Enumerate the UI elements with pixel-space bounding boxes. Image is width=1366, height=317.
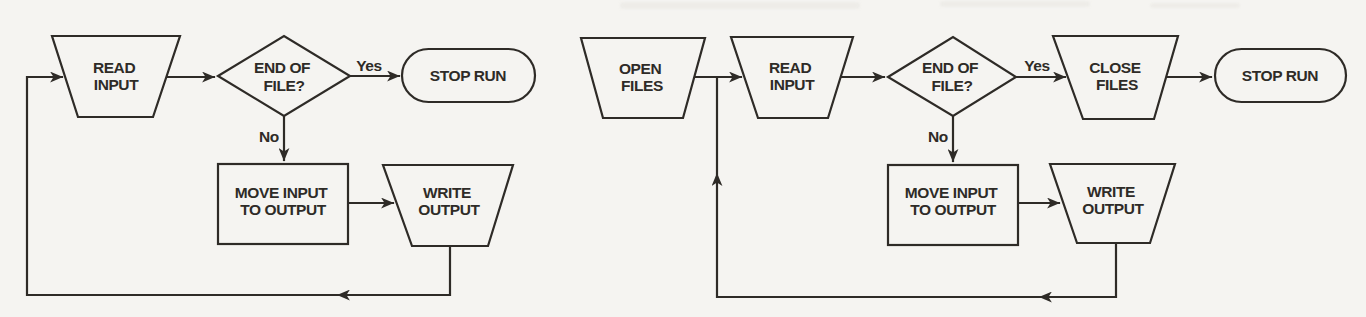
node-left-move-input: MOVE INPUT TO OUTPUT xyxy=(218,164,348,244)
flowchart-left: READ INPUT END OF FILE? STOP RUN xyxy=(27,36,535,295)
stop-run-label: STOP RUN xyxy=(1242,67,1319,84)
node-left-write-output: WRITE OUTPUT xyxy=(383,165,513,246)
left-no-branch-label: No xyxy=(259,128,279,145)
edge-right-write-output-loop-down xyxy=(1040,243,1116,297)
scanned-flowchart-page: READ INPUT END OF FILE? STOP RUN xyxy=(0,0,1366,317)
node-right-read-input: READ INPUT xyxy=(731,37,853,118)
right-no-branch-label: No xyxy=(928,128,948,145)
write-output-label: WRITE OUTPUT xyxy=(418,184,480,218)
node-right-open-files: OPEN FILES xyxy=(581,38,705,118)
end-of-file-diamond xyxy=(218,36,350,116)
read-input-label: READ INPUT xyxy=(93,59,139,93)
node-left-stop-run: STOP RUN xyxy=(402,49,535,102)
edge-left-write-output-loop-down xyxy=(338,246,450,295)
open-files-label: OPEN FILES xyxy=(619,60,665,94)
node-right-stop-run: STOP RUN xyxy=(1215,49,1346,102)
node-right-write-output: WRITE OUTPUT xyxy=(1050,164,1175,243)
flowchart-right: OPEN FILES READ INPUT END OF FILE? xyxy=(581,36,1346,297)
node-left-read-input: READ INPUT xyxy=(52,36,180,117)
right-yes-branch-label: Yes xyxy=(1024,57,1050,74)
node-left-end-of-file: END OF FILE? xyxy=(218,36,350,116)
flowchart-canvas: READ INPUT END OF FILE? STOP RUN xyxy=(0,0,1366,317)
read-input-label: READ INPUT xyxy=(769,59,815,93)
node-right-end-of-file: END OF FILE? xyxy=(888,37,1016,116)
stop-run-label: STOP RUN xyxy=(430,67,507,84)
close-files-label: CLOSE FILES xyxy=(1089,59,1144,93)
node-right-close-files: CLOSE FILES xyxy=(1053,36,1178,119)
write-output-label: WRITE OUTPUT xyxy=(1082,183,1144,217)
move-input-label: MOVE INPUT TO OUTPUT xyxy=(235,184,331,218)
move-input-label: MOVE INPUT TO OUTPUT xyxy=(905,184,1001,218)
left-yes-branch-label: Yes xyxy=(356,57,382,74)
node-right-move-input: MOVE INPUT TO OUTPUT xyxy=(888,165,1018,245)
